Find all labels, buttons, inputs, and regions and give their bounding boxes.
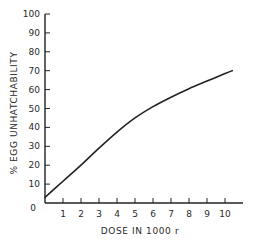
x-tick-label: 4 [114, 209, 120, 219]
x-tick-label: 9 [204, 209, 210, 219]
x-tick-label: 6 [150, 209, 156, 219]
y-tick-label: 90 [29, 28, 41, 38]
dose-response-chart: 0102030405060708090100 12345678910 % EGG… [0, 0, 253, 240]
y-tick-label: 50 [29, 104, 41, 114]
y-tick-label: 100 [23, 9, 40, 19]
x-axis-title: DOSE IN 1000 r [101, 226, 179, 236]
x-tick-label: 2 [78, 209, 84, 219]
unhatchability-curve [45, 71, 232, 198]
x-axis: 12345678910 [45, 198, 243, 219]
x-tick-label: 3 [96, 209, 102, 219]
x-tick-label: 8 [186, 209, 192, 219]
y-tick-label: 0 [30, 203, 36, 213]
y-axis: 0102030405060708090100 [23, 9, 50, 213]
y-tick-label: 10 [29, 179, 41, 189]
x-tick-label: 10 [219, 209, 231, 219]
y-tick-label: 40 [29, 122, 41, 132]
y-tick-label: 20 [29, 160, 41, 170]
y-tick-label: 80 [29, 47, 41, 57]
y-tick-label: 30 [29, 141, 41, 151]
x-tick-label: 7 [168, 209, 174, 219]
y-tick-label: 70 [29, 66, 41, 76]
y-axis-title: % EGG UNHATCHABILITY [9, 51, 19, 174]
x-tick-label: 1 [60, 209, 66, 219]
x-tick-label: 5 [132, 209, 138, 219]
y-tick-label: 60 [29, 85, 41, 95]
